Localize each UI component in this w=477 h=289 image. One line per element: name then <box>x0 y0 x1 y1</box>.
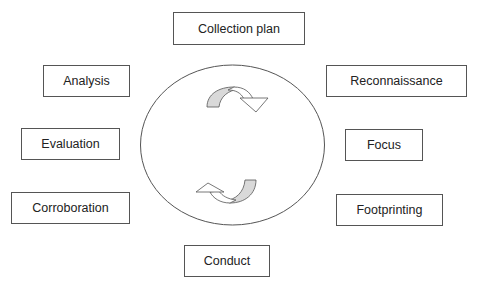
node-corroboration: Corroboration <box>11 192 130 224</box>
node-label: Conduct <box>204 254 251 268</box>
node-label: Analysis <box>63 74 110 88</box>
node-evaluation: Evaluation <box>21 128 120 160</box>
node-label: Focus <box>367 138 401 152</box>
node-collection-plan: Collection plan <box>173 12 305 45</box>
node-focus: Focus <box>345 129 423 161</box>
node-label: Footprinting <box>356 203 422 217</box>
node-conduct: Conduct <box>184 245 270 277</box>
node-footprinting: Footprinting <box>336 194 443 226</box>
node-label: Collection plan <box>198 22 280 36</box>
node-label: Evaluation <box>41 137 99 151</box>
node-analysis: Analysis <box>43 65 130 97</box>
node-reconnaissance: Reconnaissance <box>326 65 467 97</box>
node-label: Reconnaissance <box>350 74 442 88</box>
node-label: Corroboration <box>32 201 108 215</box>
cycle-diagram: Collection plan Reconnaissance Focus Foo… <box>0 0 477 289</box>
